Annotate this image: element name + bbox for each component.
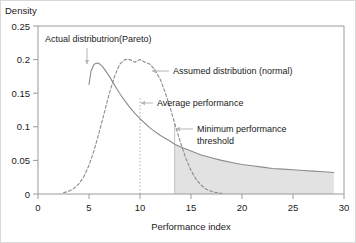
y-tick-label: 0.2 (17, 54, 30, 65)
shaded-tail-region (175, 144, 334, 194)
annotation-label-average: Average performance (157, 98, 243, 108)
y-tick-label: 0.15 (12, 88, 31, 99)
annotation-label-pareto: Actual distributrion(Pareto) (45, 34, 152, 44)
annotation-arrowhead-normal (152, 69, 156, 73)
annotation-label-threshold: Minimum performance (197, 124, 287, 134)
x-tick-label: 5 (86, 202, 91, 213)
y-tick-label: 0.25 (12, 21, 31, 32)
annotation-label-threshold-line2: threshold (197, 136, 234, 146)
y-axis-title: Density (5, 5, 37, 16)
x-tick-label: 25 (288, 202, 299, 213)
series-curve-actual-pareto (89, 63, 334, 173)
x-tick-label: 0 (35, 202, 40, 213)
annotation-arrowhead-average (141, 101, 145, 105)
annotation-label-normal: Assumed distribution (normal) (173, 66, 293, 76)
x-tick-label: 10 (135, 202, 146, 213)
x-tick-label: 30 (339, 202, 350, 213)
y-tick-label: 0 (25, 189, 30, 200)
x-tick-label: 20 (237, 202, 248, 213)
x-tick-label: 15 (186, 202, 197, 213)
y-tick-label: 0.05 (12, 155, 31, 166)
annotation-arrowhead-pareto (85, 60, 89, 64)
x-axis-title: Performance index (151, 221, 231, 232)
y-tick-label: 0.1 (17, 121, 30, 132)
chart-svg: 05101520253000.050.10.150.20.25Performan… (1, 1, 356, 243)
chart-figure: 05101520253000.050.10.150.20.25Performan… (0, 0, 356, 243)
